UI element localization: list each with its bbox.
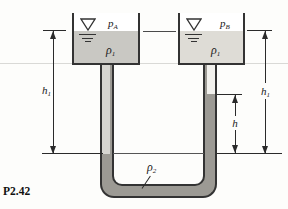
label-pressure-b: pB bbox=[220, 18, 230, 31]
extension-line-h bbox=[217, 94, 242, 95]
datum-line-left bbox=[42, 153, 103, 154]
right-tube-fluid-rho1 bbox=[207, 65, 215, 94]
u-tube-inner-gap bbox=[112, 65, 205, 186]
figure-p242: pA pB ρ1 ρ1 ρ2 h1 h1 h P2.42 bbox=[0, 0, 288, 209]
arrow-down-icon bbox=[232, 145, 238, 153]
label-h1-right: h1 bbox=[257, 86, 274, 99]
surface-hatch-line bbox=[188, 38, 199, 39]
left-tube-fluid-rho1 bbox=[102, 65, 110, 154]
label-rho1-left: ρ1 bbox=[106, 44, 115, 58]
surface-hatch-line bbox=[82, 38, 93, 39]
surface-hatch-line bbox=[79, 34, 96, 35]
surface-hatch-line bbox=[191, 41, 197, 42]
datum-line-middle bbox=[113, 153, 204, 154]
label-rho1-right: ρ1 bbox=[211, 44, 220, 58]
extension-line-right bbox=[247, 30, 272, 31]
arrow-up-icon bbox=[262, 31, 268, 39]
surface-level-line bbox=[143, 31, 176, 32]
datum-line-right bbox=[217, 153, 282, 154]
label-rho2: ρ2 bbox=[147, 161, 156, 175]
arrow-up-icon bbox=[232, 95, 238, 103]
dim-h1-left-line bbox=[53, 31, 54, 154]
surface-hatch-line bbox=[185, 34, 202, 35]
label-pressure-a: pA bbox=[108, 18, 118, 31]
free-surface-marker-icon bbox=[80, 18, 96, 31]
surface-hatch-line bbox=[85, 41, 91, 42]
figure-label: P2.42 bbox=[3, 186, 30, 198]
free-surface-marker-icon bbox=[186, 18, 202, 31]
label-h1-left: h1 bbox=[36, 85, 51, 98]
arrow-up-icon bbox=[50, 31, 56, 39]
label-h: h bbox=[228, 118, 242, 131]
